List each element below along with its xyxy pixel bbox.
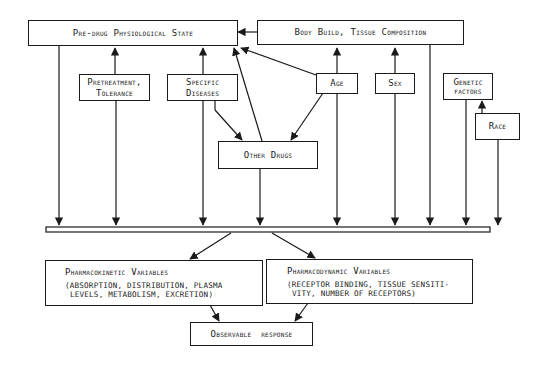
node-pharmacodynamic-variables: Pharmacodynamic Variables (receptor bind… — [266, 259, 473, 304]
node-label-line: Tolerance — [96, 88, 133, 99]
node-race: Race — [475, 113, 520, 140]
edge-bar-to-pharmacodynamic — [272, 233, 315, 258]
node-detail-line: vity, number of receptors) — [287, 289, 416, 298]
node-pharmacokinetic-variables: Pharmacokinetic Variables (absorption, d… — [45, 260, 263, 306]
node-label: Pre-drug Physiological State — [73, 28, 193, 39]
node-genetic-factors: Genetic factors — [443, 73, 493, 100]
edge-age-to-pre-drug — [241, 48, 316, 75]
node-pre-drug-physiological-state: Pre-drug Physiological State — [28, 20, 238, 46]
node-sex: Sex — [375, 73, 415, 94]
node-title: Pharmacokinetic Variables — [65, 267, 168, 278]
edge-pharmacokinetic-to-response — [210, 305, 219, 321]
edge-bar-to-pharmacokinetic — [190, 233, 231, 259]
edge-age-to-other-drugs — [291, 93, 323, 140]
node-title: Pharmacodynamic Variables — [287, 266, 390, 277]
node-detail-line: (receptor binding, tissue sensiti- — [287, 280, 449, 289]
node-label: Body Build, Tissue Composition — [295, 27, 427, 38]
node-label-line: factors — [454, 87, 481, 96]
node-pretreatment-tolerance: Pretreatment, Tolerance — [79, 74, 150, 101]
node-detail-line: levels, metabolism, excretion) — [65, 290, 213, 299]
node-label: Age — [330, 78, 344, 89]
node-label-line: Specific — [186, 77, 219, 88]
edge-pharmacodynamic-to-response — [295, 303, 308, 321]
edge-diseases-to-other-drugs — [215, 110, 242, 140]
node-label: Other Drugs — [244, 150, 292, 161]
node-label-line: Pretreatment, — [87, 77, 141, 88]
node-detail-line: (absorption, distribution, plasma — [65, 281, 222, 290]
connector-layer — [0, 0, 547, 367]
convergence-bar — [46, 227, 490, 232]
node-observable-response: Observable response — [190, 322, 313, 346]
node-specific-diseases: Specific Diseases — [167, 74, 238, 101]
node-body-build-tissue-composition: Body Build, Tissue Composition — [257, 20, 464, 45]
node-other-drugs: Other Drugs — [218, 141, 318, 169]
node-age: Age — [316, 73, 358, 94]
edge-other-drugs-to-pre-drug — [234, 48, 262, 141]
node-label: Sex — [388, 78, 402, 89]
node-label-line: Diseases — [186, 88, 219, 99]
node-label: Race — [489, 121, 506, 132]
node-label: Observable response — [211, 329, 293, 340]
